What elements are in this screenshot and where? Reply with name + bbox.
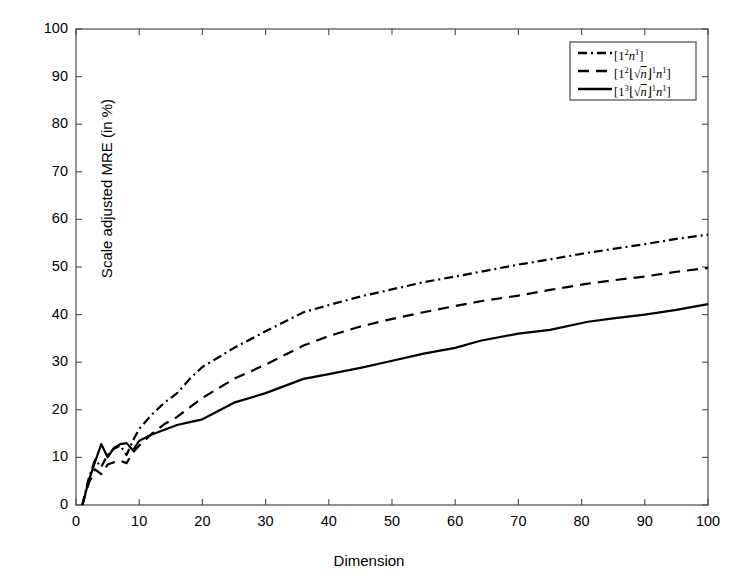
y-tick-90: 90	[26, 68, 68, 84]
x-tick-40: 40	[309, 513, 349, 529]
x-tick-60: 60	[435, 513, 475, 529]
x-tick-20: 20	[182, 513, 222, 529]
y-tick-10: 10	[26, 448, 68, 464]
y-tick-70: 70	[26, 163, 68, 179]
y-tick-20: 20	[26, 401, 68, 417]
x-tick-80: 80	[562, 513, 602, 529]
x-tick-50: 50	[372, 513, 412, 529]
y-tick-60: 60	[26, 210, 68, 226]
x-tick-100: 100	[688, 513, 728, 529]
y-tick-40: 40	[26, 306, 68, 322]
x-tick-90: 90	[625, 513, 665, 529]
x-tick-70: 70	[498, 513, 538, 529]
x-tick-0: 0	[56, 513, 96, 529]
y-tick-0: 0	[26, 496, 68, 512]
series-line-2	[82, 304, 708, 505]
y-tick-100: 100	[26, 20, 68, 36]
x-tick-10: 10	[119, 513, 159, 529]
legend-label-1: [12⌊√n⌋1n1]	[614, 65, 671, 82]
series-line-1	[82, 268, 708, 505]
x-axis-label: Dimension	[0, 552, 738, 569]
legend-label-0: [12n1]	[614, 47, 643, 64]
chart-figure: Scale adjusted MRE (in %) Dimension 0102…	[0, 0, 738, 586]
x-tick-30: 30	[246, 513, 286, 529]
y-axis-label: Scale adjusted MRE (in %)	[98, 79, 115, 299]
legend-label-2: [13⌊√n⌋1n1]	[614, 83, 671, 100]
y-tick-50: 50	[26, 258, 68, 274]
y-tick-30: 30	[26, 353, 68, 369]
y-tick-80: 80	[26, 115, 68, 131]
series-line-0	[82, 235, 708, 505]
